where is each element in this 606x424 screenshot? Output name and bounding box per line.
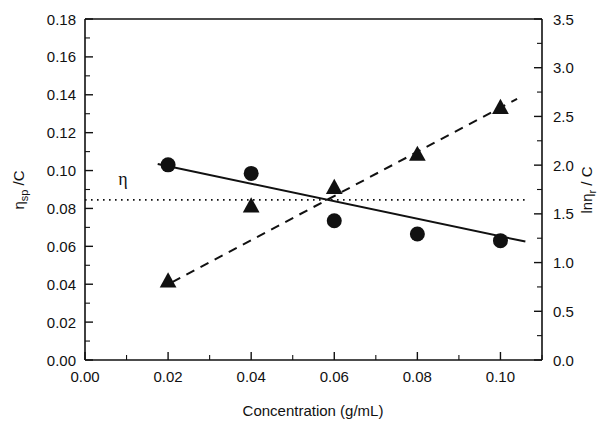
data-point-triangle [160, 272, 177, 287]
y-tick-label: 0.04 [47, 276, 76, 293]
y2-tick-label: 3.5 [553, 11, 574, 28]
axes [85, 19, 542, 360]
y-tick-label: 0.16 [47, 48, 76, 65]
chart-figure: 0.000.020.040.060.080.100.120.140.160.18… [0, 0, 606, 424]
y-tick-label: 0.14 [47, 86, 76, 103]
y-tick-label: 0.12 [47, 124, 76, 141]
y2-tick-label: 1.5 [553, 205, 574, 222]
data-point-circle [327, 213, 342, 228]
fit-line-series-0 [158, 164, 526, 242]
data-point-circle [244, 166, 259, 181]
y-tick-label: 0.00 [47, 352, 76, 369]
data-point-circle [161, 157, 176, 172]
x-tick-label: 0.06 [320, 368, 349, 385]
data-point-triangle [243, 197, 260, 212]
x-tick-label: 0.04 [237, 368, 266, 385]
data-markers [160, 99, 509, 288]
data-point-triangle [492, 99, 509, 114]
data-point-circle [493, 233, 508, 248]
y2-tick-label: 1.0 [553, 254, 574, 271]
y2-tick-label: 0.0 [553, 352, 574, 369]
y-tick-label: 0.02 [47, 314, 76, 331]
x-tick-label: 0.02 [153, 368, 182, 385]
tick-labels: 0.000.020.040.060.080.100.120.140.160.18… [47, 11, 574, 386]
data-point-triangle [326, 179, 343, 194]
y-tick-label: 0.06 [47, 238, 76, 255]
y2-tick-label: 2.0 [553, 157, 574, 174]
y2-tick-label: 2.5 [553, 108, 574, 125]
fit-lines [158, 99, 526, 282]
tick-marks [85, 19, 542, 360]
x-tick-label: 0.10 [486, 368, 515, 385]
y2-tick-label: 3.0 [553, 59, 574, 76]
x-tick-label: 0.00 [70, 368, 99, 385]
fit-line-series-1 [172, 99, 517, 282]
annotation-eta: η [118, 169, 127, 189]
x-tick-label: 0.08 [403, 368, 432, 385]
y-tick-label: 0.08 [47, 200, 76, 217]
x-axis-title: Concentration (g/mL) [243, 402, 384, 419]
annotations: η [118, 169, 127, 189]
data-point-circle [410, 227, 425, 242]
chart-canvas: 0.000.020.040.060.080.100.120.140.160.18… [0, 0, 606, 424]
y2-tick-label: 0.5 [553, 303, 574, 320]
y-tick-label: 0.10 [47, 162, 76, 179]
data-point-triangle [409, 146, 426, 161]
y-tick-label: 0.18 [47, 11, 76, 28]
